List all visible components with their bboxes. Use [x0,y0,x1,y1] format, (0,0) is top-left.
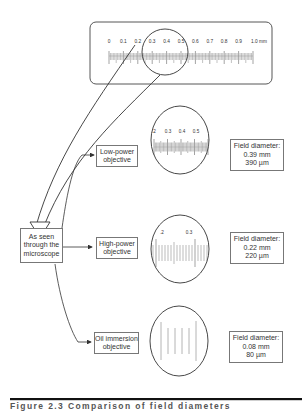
branch-arrow-low [62,155,94,228]
scale-label: 0.2 [134,39,141,44]
objective-name: objective [97,248,137,257]
scale-label: 0.5 [193,129,200,134]
field-title: Field diameter: [231,235,283,244]
scale-label: 0.4 [179,129,186,134]
objective-name: Oil immersion [95,335,138,344]
objective-name: High-power [97,240,137,249]
bottom-rule [10,398,302,400]
scale-label: 0.3 [165,129,172,134]
field-mm: 0.39 mm [231,151,283,160]
low-power-field-box: Field diameter: 0.39 mm 390 µm [230,139,284,171]
source-line-3: microscope [21,250,62,259]
objective-name: Low-power [97,148,137,157]
low-power-view [151,106,209,174]
field-um: 80 µm [230,351,282,360]
source-line-2: through the [21,241,62,250]
scale-label: 0.8 [221,39,228,44]
scale-label: 0.6 [192,39,199,44]
low-power-objective-label: Low-power objective [96,145,138,167]
scale-label: 0 [108,39,111,44]
field-mm: 0.22 mm [231,244,283,253]
source-box: As seen through the microscope [20,228,63,263]
scale-label: 1.0 mm [251,39,267,44]
oil-immersion-field-box: Field diameter: 0.08 mm 80 µm [229,331,283,363]
scale-label: .2 [152,129,156,134]
field-um: 390 µm [231,159,283,168]
field-title: Field diameter: [230,334,282,343]
high-power-objective-label: High-power objective [96,237,138,259]
source-line-1: As seen [21,233,62,242]
scale-label: 0.4 [163,39,170,44]
field-mm: 0.08 mm [230,343,282,352]
high-power-field-box: Field diameter: 0.22 mm 220 µm [230,232,284,264]
scale-label: 0.3 [149,39,156,44]
oil-immersion-objective-label: Oil immersion objective [94,332,139,354]
scale-label: 0.5 [178,39,185,44]
figure-caption: Figure 2.3 Comparison of field diameters [10,401,231,411]
objective-name: objective [95,343,138,352]
scale-label: 0.3 [186,230,193,235]
scale-label: .2 [160,230,164,235]
branch-arrow-oil [55,264,91,342]
scale-label: 0.9 [235,39,242,44]
oil-immersion-view [150,306,208,376]
field-title: Field diameter: [231,142,283,151]
objective-name: objective [97,156,137,165]
scale-label: 0.1 [120,39,127,44]
scale-label: 0.7 [206,39,213,44]
field-um: 220 µm [231,252,283,261]
